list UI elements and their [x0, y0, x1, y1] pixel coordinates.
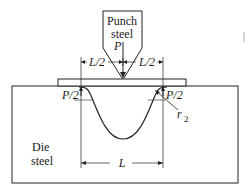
three-point-bend-diagram: Punch steel P L/2 L/2 P/2 P/2 r 2 Die st…: [0, 0, 246, 192]
arrow-head: [159, 60, 163, 64]
die-label-1: Die: [32, 140, 49, 154]
span-label: L: [118, 156, 126, 170]
radius-subscript: 2: [184, 114, 189, 124]
reaction-left-label: P/2: [61, 88, 79, 102]
die-groove: [79, 87, 167, 139]
arrow-head: [81, 60, 85, 64]
force-label: P: [113, 39, 122, 53]
specimen-plate: [58, 79, 186, 86]
die-label-2: steel: [31, 154, 54, 168]
reaction-right-label: P/2: [165, 88, 183, 102]
punch-label-1: Punch: [107, 14, 137, 28]
half-span-left-label: L/2: [88, 55, 105, 69]
radius-label: r: [177, 107, 182, 121]
arrow-head: [158, 161, 163, 165]
half-span-right-label: L/2: [138, 55, 155, 69]
arrow-head: [81, 161, 86, 165]
